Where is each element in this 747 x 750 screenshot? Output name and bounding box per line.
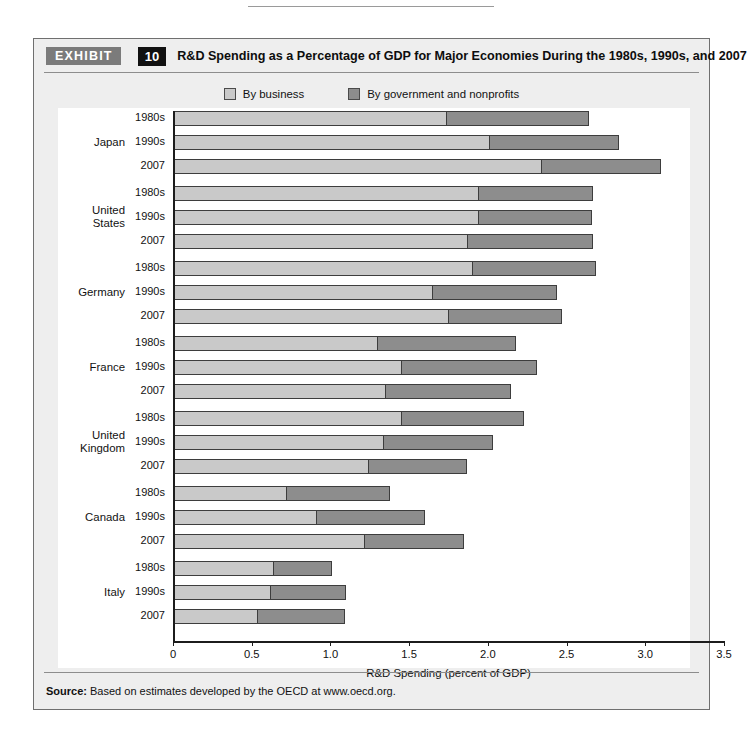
bar-segment-government bbox=[478, 187, 593, 200]
x-axis: R&D Spending (percent of GDP) 00.51.01.5… bbox=[173, 641, 724, 642]
bar-segment-government bbox=[478, 211, 591, 224]
stacked-bar[interactable] bbox=[173, 261, 596, 276]
bar-segment-business bbox=[174, 112, 446, 125]
period-label: 1980s bbox=[67, 560, 165, 575]
bar-segment-government bbox=[446, 112, 587, 125]
stacked-bar[interactable] bbox=[173, 486, 390, 501]
chart-row: 2007 bbox=[67, 159, 691, 174]
chart-row: 1980s bbox=[67, 561, 691, 576]
bar-segment-government bbox=[472, 262, 596, 275]
x-axis-tick bbox=[409, 641, 410, 646]
bar-segment-government bbox=[401, 412, 523, 425]
stacked-bar[interactable] bbox=[173, 510, 425, 525]
stacked-bar[interactable] bbox=[173, 210, 592, 225]
chart-rows: 1980s1990s2007Japan1980s1990s2007UnitedS… bbox=[67, 111, 691, 633]
exhibit-number-badge: 10 bbox=[138, 47, 166, 66]
stacked-bar[interactable] bbox=[173, 336, 516, 351]
bar-track bbox=[173, 285, 691, 300]
x-axis-tick-label: 2.0 bbox=[480, 648, 496, 660]
bar-segment-government bbox=[448, 310, 561, 323]
country-group: 1980s1990s2007France bbox=[67, 336, 691, 399]
x-axis-tick bbox=[252, 641, 253, 646]
bar-segment-business bbox=[174, 511, 316, 524]
chart-row: 2007 bbox=[67, 384, 691, 399]
country-group: 1980s1990s2007Japan bbox=[67, 111, 691, 174]
chart-row: 2007 bbox=[67, 309, 691, 324]
country-label-line: United bbox=[67, 204, 125, 217]
bar-track bbox=[173, 459, 691, 474]
exhibit-header: EXHIBIT 10 R&D Spending as a Percentage … bbox=[34, 39, 709, 73]
x-axis-tick-label: 0.5 bbox=[244, 648, 260, 660]
stacked-bar[interactable] bbox=[173, 111, 589, 126]
chart-row: 1990s bbox=[67, 585, 691, 600]
bar-track bbox=[173, 384, 691, 399]
bar-track bbox=[173, 135, 691, 150]
stacked-bar[interactable] bbox=[173, 534, 464, 549]
period-label: 1980s bbox=[67, 335, 165, 350]
chart-row: 1980s bbox=[67, 336, 691, 351]
bar-track bbox=[173, 435, 691, 450]
bar-segment-business bbox=[174, 337, 377, 350]
period-label: 2007 bbox=[67, 308, 165, 323]
period-label: 2007 bbox=[67, 608, 165, 623]
country-group: 1980s1990s2007UnitedStates bbox=[67, 186, 691, 249]
period-label: 2007 bbox=[67, 158, 165, 173]
bar-segment-business bbox=[174, 310, 448, 323]
x-axis-tick bbox=[567, 641, 568, 646]
source-text: Based on estimates developed by the OECD… bbox=[87, 685, 396, 697]
stacked-bar[interactable] bbox=[173, 435, 493, 450]
legend-swatch-government bbox=[348, 88, 360, 100]
legend-item-business: By business bbox=[224, 88, 304, 100]
stacked-bar[interactable] bbox=[173, 384, 511, 399]
source-note: Source: Based on estimates developed by … bbox=[46, 685, 396, 697]
legend-swatch-business bbox=[224, 88, 236, 100]
period-label: 1980s bbox=[67, 110, 165, 125]
x-axis-tick bbox=[724, 641, 725, 646]
bar-segment-business bbox=[174, 262, 472, 275]
bar-segment-business bbox=[174, 286, 432, 299]
chart-row: 2007 bbox=[67, 234, 691, 249]
stacked-bar[interactable] bbox=[173, 159, 661, 174]
stacked-bar[interactable] bbox=[173, 186, 593, 201]
country-label: UnitedKingdom bbox=[67, 429, 125, 455]
country-label: UnitedStates bbox=[67, 204, 125, 230]
chart-row: 1990s bbox=[67, 360, 691, 375]
bar-segment-government bbox=[273, 562, 331, 575]
bar-segment-business bbox=[174, 160, 541, 173]
stacked-bar[interactable] bbox=[173, 459, 467, 474]
stacked-bar[interactable] bbox=[173, 309, 562, 324]
period-label: 2007 bbox=[67, 533, 165, 548]
x-axis-tick-label: 3.0 bbox=[638, 648, 654, 660]
chart-row: 1980s bbox=[67, 486, 691, 501]
bar-segment-business bbox=[174, 136, 489, 149]
x-axis-tick-label: 2.5 bbox=[559, 648, 575, 660]
stacked-bar[interactable] bbox=[173, 234, 593, 249]
country-group: 1980s1990s2007UnitedKingdom bbox=[67, 411, 691, 474]
stacked-bar[interactable] bbox=[173, 360, 537, 375]
stacked-bar[interactable] bbox=[173, 285, 557, 300]
country-group: 1980s1990s2007Canada bbox=[67, 486, 691, 549]
country-label: Italy bbox=[67, 586, 125, 599]
stacked-bar[interactable] bbox=[173, 609, 345, 624]
period-label: 2007 bbox=[67, 233, 165, 248]
period-label: 1980s bbox=[67, 185, 165, 200]
bar-track bbox=[173, 210, 691, 225]
chart-row: 2007 bbox=[67, 534, 691, 549]
bar-segment-government bbox=[257, 610, 343, 623]
bar-track bbox=[173, 486, 691, 501]
bar-segment-government bbox=[489, 136, 618, 149]
bar-segment-government bbox=[467, 235, 593, 248]
stacked-bar[interactable] bbox=[173, 561, 332, 576]
x-axis-line bbox=[173, 641, 724, 643]
y-axis-line bbox=[173, 111, 175, 643]
chart-row: 2007 bbox=[67, 609, 691, 624]
stacked-bar[interactable] bbox=[173, 135, 619, 150]
bar-track bbox=[173, 510, 691, 525]
stacked-bar[interactable] bbox=[173, 585, 346, 600]
bar-track bbox=[173, 261, 691, 276]
stacked-bar[interactable] bbox=[173, 411, 524, 426]
chart-row: 1990s bbox=[67, 210, 691, 225]
bar-track bbox=[173, 609, 691, 624]
chart-row: 1990s bbox=[67, 510, 691, 525]
x-axis-tick bbox=[488, 641, 489, 646]
